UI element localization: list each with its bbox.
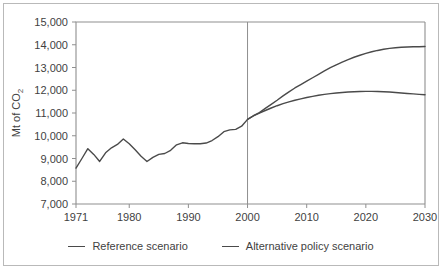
- y-tick-label: 10,000: [34, 130, 68, 142]
- y-tick-label: 12,000: [34, 84, 68, 96]
- x-tick-label: 2020: [354, 211, 378, 223]
- y-tick-label: 11,000: [35, 107, 68, 119]
- series-path: [76, 47, 425, 168]
- x-tick-label: 2010: [294, 211, 318, 223]
- legend-line-icon: [68, 246, 85, 247]
- y-axis-ticks: 7,0008,0009,00010,00011,00012,00013,0001…: [34, 16, 76, 210]
- y-tick-label: 15,000: [34, 16, 68, 28]
- x-tick-label: 1980: [117, 211, 141, 223]
- axis-lines: [76, 22, 425, 204]
- y-axis-title-text: Mt of CO2: [10, 88, 25, 137]
- legend-line-icon: [222, 246, 239, 247]
- x-tick-label: 2030: [413, 211, 437, 223]
- y-tick-label: 14,000: [34, 39, 68, 51]
- x-tick-label: 1971: [64, 211, 88, 223]
- legend-item-alternative: Alternative policy scenario: [222, 240, 374, 252]
- x-axis-ticks: 1971198019902000201020202030: [64, 204, 437, 223]
- data-series: [76, 47, 425, 168]
- chart-figure: 7,0008,0009,00010,00011,00012,00013,0001…: [0, 0, 442, 270]
- chart-legend: Reference scenario Alternative policy sc…: [0, 240, 442, 252]
- legend-item-reference: Reference scenario: [68, 240, 187, 252]
- y-tick-label: 9,000: [40, 153, 68, 165]
- y-tick-label: 13,000: [34, 62, 68, 74]
- x-tick-label: 2000: [235, 211, 259, 223]
- y-axis-title: Mt of CO2: [10, 88, 25, 137]
- x-tick-label: 1990: [176, 211, 200, 223]
- line-chart-canvas: 7,0008,0009,00010,00011,00012,00013,0001…: [0, 0, 442, 270]
- legend-label: Alternative policy scenario: [246, 240, 374, 252]
- series-path: [248, 91, 425, 119]
- y-tick-label: 8,000: [40, 175, 68, 187]
- legend-label: Reference scenario: [92, 240, 187, 252]
- y-tick-label: 7,000: [40, 198, 68, 210]
